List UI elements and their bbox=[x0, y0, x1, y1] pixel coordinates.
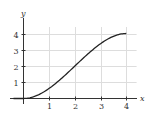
y-tick-label: 3 bbox=[13, 47, 18, 56]
x-tick-label: 1 bbox=[47, 102, 52, 111]
x-tick-labels: 1234 bbox=[47, 102, 129, 111]
y-tick-label: 1 bbox=[13, 79, 18, 88]
y-tick-label: 2 bbox=[13, 63, 18, 72]
x-tick-label: 4 bbox=[124, 102, 129, 111]
y-tick-label: 4 bbox=[13, 31, 18, 40]
x-tick-label: 2 bbox=[73, 102, 78, 111]
x-axis-label: x bbox=[140, 94, 145, 103]
y-tick-labels: 1234 bbox=[13, 31, 18, 88]
chart: 1234 1234 x y bbox=[0, 0, 156, 115]
x-tick-label: 3 bbox=[99, 102, 104, 111]
grid-lines bbox=[24, 27, 137, 99]
y-axis-label: y bbox=[20, 9, 26, 18]
